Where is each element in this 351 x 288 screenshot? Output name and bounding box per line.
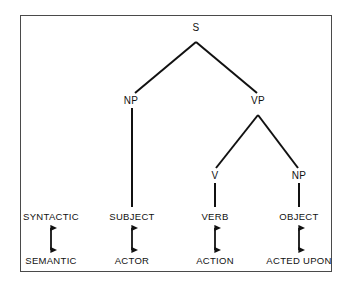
semantic-term-action: ACTION (196, 255, 234, 266)
tree-node-np-object: NP (292, 170, 307, 181)
tree-graphics (0, 0, 351, 288)
tree-branch-s-np (135, 42, 196, 93)
row-label-syntactic: SYNTACTIC (23, 211, 79, 222)
syntactic-term-object: OBJECT (279, 211, 318, 222)
semantic-term-actor: ACTOR (115, 255, 150, 266)
tree-branch-vp-v (216, 115, 258, 168)
tree-node-vp: VP (251, 95, 265, 106)
syntactic-term-subject: SUBJECT (109, 211, 154, 222)
semantic-term-acted-upon: ACTED UPON (266, 255, 331, 266)
tree-node-s: S (192, 22, 199, 33)
tree-node-np-subject: NP (124, 95, 139, 106)
tree-node-v: V (211, 170, 218, 181)
syntactic-term-verb: VERB (201, 211, 228, 222)
diagram-canvas: S NP VP V NP SYNTACTIC SUBJECT VERB OBJE… (0, 0, 351, 288)
tree-branch-vp-np (258, 115, 298, 168)
tree-branch-s-vp (196, 42, 257, 93)
row-label-semantic: SEMANTIC (25, 255, 77, 266)
